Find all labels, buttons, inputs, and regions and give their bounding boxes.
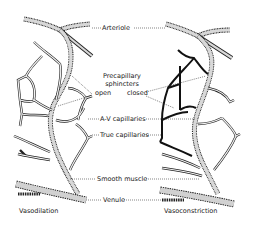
precapillary-label-line2: sphincters	[105, 81, 139, 88]
smooth-muscle-label: Smooth muscle	[97, 176, 147, 183]
venule-label: Venule	[103, 197, 125, 204]
arteriole-label: Arteriole	[102, 25, 130, 32]
closed-label: closed	[127, 90, 148, 97]
true-capillaries-label: True capillaries	[100, 132, 149, 139]
av-capillaries-label: A-V capillaries	[100, 116, 146, 123]
left-main-channel	[50, 30, 78, 194]
vasodilation-caption: Vasodilation	[19, 208, 58, 215]
microcirculation-diagram	[0, 0, 253, 228]
right-arteriole	[166, 24, 232, 58]
precapillary-label-line1: Precapillary	[103, 73, 141, 80]
left-arteriole	[24, 19, 92, 56]
vasoconstriction-panel	[160, 24, 240, 204]
open-label: open	[95, 90, 111, 97]
vasoconstriction-caption: Vasoconstriction	[164, 208, 217, 215]
right-venule	[160, 190, 234, 204]
vasodilation-panel	[14, 19, 92, 200]
